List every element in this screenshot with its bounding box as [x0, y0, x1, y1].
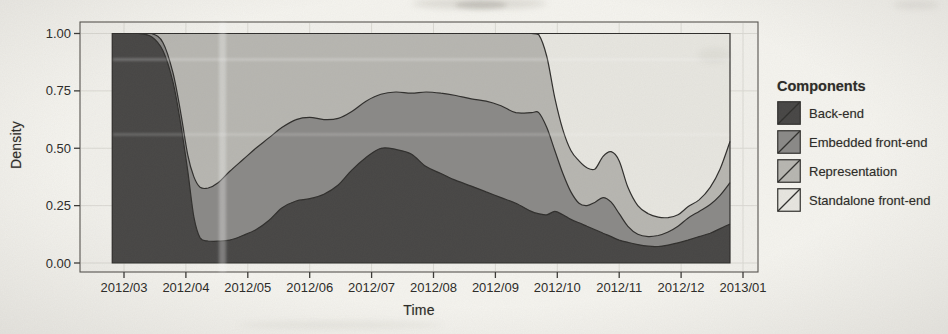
- legend-item-label: Embedded front-end: [809, 135, 928, 150]
- x-tick-label: 2012/12: [658, 280, 705, 295]
- x-tick-label: 2012/04: [162, 280, 209, 295]
- x-tick-label: 2012/11: [596, 280, 642, 295]
- legend-item: Embedded front-end: [777, 130, 930, 154]
- legend: Components Back-endEmbedded front-endRep…: [777, 78, 930, 217]
- x-tick-label: 2012/03: [101, 280, 148, 295]
- x-tick-label: 2012/09: [472, 280, 519, 295]
- x-axis-ticks: 2012/032012/042012/052012/062012/072012/…: [101, 272, 767, 295]
- y-axis-title: Density: [8, 114, 24, 176]
- y-tick-label: 0.50: [46, 141, 71, 156]
- legend-items: Back-endEmbedded front-endRepresentation…: [777, 101, 930, 212]
- scanned-page: 1.000.750.500.250.002012/032012/042012/0…: [0, 0, 948, 334]
- x-tick-label: 2012/07: [348, 280, 395, 295]
- legend-key-swatch: [777, 130, 801, 154]
- x-axis-title: Time: [80, 302, 758, 318]
- y-tick-label: 0.75: [46, 83, 71, 98]
- legend-item-label: Back-end: [809, 106, 864, 121]
- x-tick-label: 2012/10: [534, 280, 581, 295]
- y-tick-label: 0.00: [46, 256, 71, 271]
- y-tick-label: 1.00: [46, 26, 71, 41]
- legend-title: Components: [777, 78, 930, 94]
- legend-item-label: Representation: [809, 164, 897, 179]
- x-tick-label: 2012/05: [224, 280, 271, 295]
- legend-item-label: Standalone front-end: [809, 193, 930, 208]
- legend-item: Representation: [777, 159, 930, 183]
- y-tick-label: 0.25: [46, 198, 71, 213]
- x-tick-label: 2012/06: [286, 280, 333, 295]
- legend-item: Standalone front-end: [777, 188, 930, 212]
- y-axis-ticks: 1.000.750.500.250.00: [46, 26, 80, 271]
- legend-key-swatch: [777, 188, 801, 212]
- legend-key-swatch: [777, 101, 801, 125]
- x-tick-label: 2013/01: [720, 280, 767, 295]
- legend-item: Back-end: [777, 101, 930, 125]
- legend-key-swatch: [777, 159, 801, 183]
- x-tick-label: 2012/08: [410, 280, 457, 295]
